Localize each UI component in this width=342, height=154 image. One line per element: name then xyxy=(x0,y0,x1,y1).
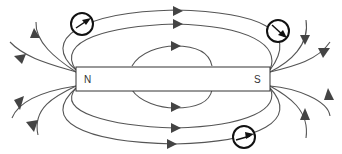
arrow-icon xyxy=(30,28,40,38)
arrow-icon xyxy=(324,88,334,100)
compass-bottom xyxy=(233,126,255,148)
arrow-icon xyxy=(173,6,183,16)
arrow-icon xyxy=(171,123,181,133)
arrow-icon xyxy=(173,19,183,29)
compass-top-left xyxy=(71,13,93,35)
south-pole-label: S xyxy=(254,74,261,85)
arrow-icon xyxy=(171,102,181,112)
magnetic-field-diagram: N S xyxy=(0,0,342,154)
field-line-right-4 xyxy=(270,86,306,138)
arrow-icon xyxy=(300,35,310,45)
arrow-icon xyxy=(14,54,26,64)
arrow-icon xyxy=(26,120,38,132)
arrow-icon xyxy=(167,139,177,149)
north-pole-label: N xyxy=(84,74,91,85)
compass-top-right xyxy=(267,20,289,42)
arrow-icon xyxy=(14,96,24,110)
field-line-top-outer xyxy=(63,10,280,70)
arrow-icon xyxy=(171,41,181,51)
arrow-icon xyxy=(300,108,310,120)
bar-magnet: N S xyxy=(76,67,270,91)
